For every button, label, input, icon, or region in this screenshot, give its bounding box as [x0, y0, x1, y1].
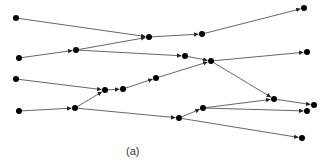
node-n10 [13, 76, 19, 82]
node-n15 [72, 105, 78, 111]
edge-n16-n17 [274, 99, 311, 104]
edge-n5-n6 [202, 9, 301, 34]
edge-n8-n16 [211, 61, 271, 97]
edges-layer [16, 9, 311, 138]
edge-n18-n16 [203, 99, 271, 108]
node-n5 [199, 31, 205, 37]
node-n8 [208, 58, 214, 64]
edge-n20-n18 [179, 109, 200, 118]
edge-n8-n9 [211, 52, 304, 61]
edge-n3-n4 [76, 38, 146, 50]
figure-caption: (a) [126, 145, 139, 157]
edge-n20-n21 [179, 118, 299, 137]
node-n20 [176, 115, 182, 121]
edge-n15-n11 [75, 92, 102, 108]
node-n2 [16, 55, 22, 61]
nodes-layer [13, 5, 317, 141]
node-n12 [120, 86, 126, 92]
edge-n1-n4 [16, 18, 146, 37]
node-n7 [182, 53, 188, 59]
edge-n12-n13 [123, 79, 153, 89]
directed-graph [0, 0, 327, 167]
node-n6 [301, 5, 307, 11]
edge-n13-n8 [156, 62, 208, 78]
node-n9 [304, 49, 310, 55]
edge-n3-n7 [76, 50, 182, 56]
edge-n10-n11 [16, 79, 102, 90]
node-n17 [311, 102, 317, 108]
node-n3 [73, 47, 79, 53]
node-n13 [153, 75, 159, 81]
node-n19 [304, 108, 310, 114]
node-n11 [102, 87, 108, 93]
node-n18 [200, 105, 206, 111]
node-n14 [16, 108, 22, 114]
node-n21 [299, 135, 305, 141]
edge-n2-n3 [19, 50, 73, 58]
edge-n7-n8 [185, 56, 208, 60]
edge-n14-n15 [19, 108, 72, 111]
edge-n4-n5 [149, 34, 199, 37]
node-n16 [271, 96, 277, 102]
node-n4 [146, 34, 152, 40]
edge-n15-n20 [75, 108, 176, 118]
edge-n18-n19 [203, 108, 304, 111]
node-n1 [13, 15, 19, 21]
